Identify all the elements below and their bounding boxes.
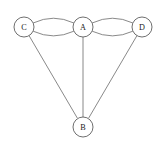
edge-d-b (89, 36, 137, 118)
edge-a-d-lower (93, 31, 133, 36)
graph-svg: C A D B (0, 0, 167, 160)
graph-diagram-canvas: C A D B (0, 0, 167, 160)
node-b-label: B (80, 123, 86, 132)
node-d[interactable]: D (132, 17, 152, 37)
node-a-label: A (80, 23, 86, 32)
edge-c-b (29, 36, 77, 118)
node-d-label: D (139, 23, 145, 32)
edge-c-a-lower (34, 31, 74, 36)
node-b[interactable]: B (73, 117, 93, 137)
node-c-label: C (21, 23, 27, 32)
edge-c-a-upper (34, 18, 74, 23)
edge-a-d-upper (93, 18, 133, 23)
node-c[interactable]: C (14, 17, 34, 37)
node-a[interactable]: A (73, 17, 93, 37)
